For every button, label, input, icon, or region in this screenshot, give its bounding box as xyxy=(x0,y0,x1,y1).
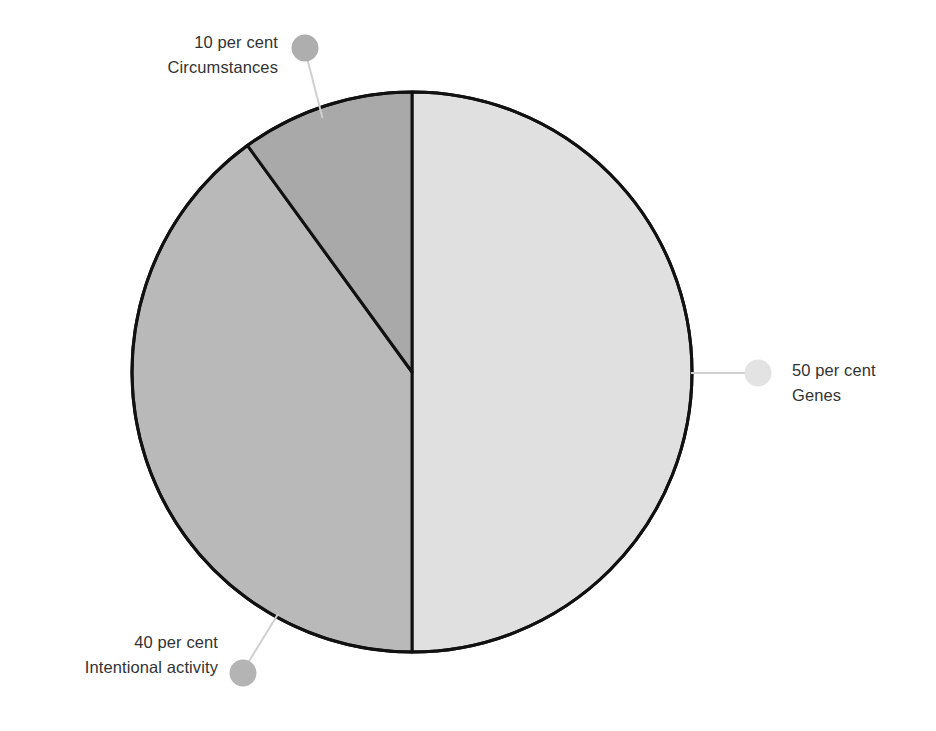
callout-label-genes: 50 per cent Genes xyxy=(792,358,936,408)
callout-name-genes: Genes xyxy=(792,383,936,408)
callout-name-intentional-activity: Intentional activity xyxy=(0,655,218,680)
pie-chart-figure: 10 per cent Circumstances 50 per cent Ge… xyxy=(0,0,936,731)
callout-label-circumstances: 10 per cent Circumstances xyxy=(0,30,278,80)
pie-slice-genes[interactable] xyxy=(412,92,692,652)
callout-value-intentional-activity: 40 per cent xyxy=(0,630,218,655)
callout-value-genes: 50 per cent xyxy=(792,358,936,383)
leader-dot-intentional-activity[interactable] xyxy=(230,660,257,687)
leader-dot-circumstances[interactable] xyxy=(292,35,319,62)
callout-label-intentional-activity: 40 per cent Intentional activity xyxy=(0,630,218,680)
callout-value-circumstances: 10 per cent xyxy=(0,30,278,55)
leader-dot-genes[interactable] xyxy=(745,360,772,387)
callout-name-circumstances: Circumstances xyxy=(0,55,278,80)
